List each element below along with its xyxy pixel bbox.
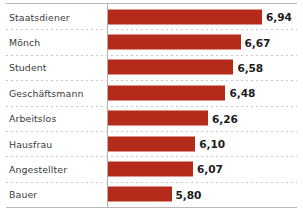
bar-group: 6,26: [108, 111, 238, 126]
bar: [108, 60, 233, 75]
value-label: 6,10: [199, 138, 225, 150]
bar-group: 5,80: [108, 187, 201, 202]
plot-area: Staatsdiener 6,94 Mönch 6,67 Student: [0, 4, 303, 207]
table-row: Mönch 6,67: [0, 29, 303, 54]
category-label: Angestellter: [9, 163, 67, 174]
bar-rows: Staatsdiener 6,94 Mönch 6,67 Student: [0, 4, 303, 207]
table-row: Arbeitslos 6,26: [0, 106, 303, 131]
table-row: Angestellter 6,07: [0, 156, 303, 181]
table-row: Hausfrau 6,10: [0, 131, 303, 156]
category-label: Arbeitslos: [9, 113, 56, 124]
row-separator: [6, 29, 297, 30]
bar-group: 6,94: [108, 9, 292, 24]
row-separator: [6, 182, 297, 183]
bar-group: 6,07: [108, 161, 223, 176]
value-label: 5,80: [176, 188, 202, 200]
bar: [108, 111, 208, 126]
value-label: 6,26: [212, 112, 238, 124]
row-separator: [6, 80, 297, 81]
bar: [108, 161, 193, 176]
row-separator: [6, 156, 297, 157]
horizontal-bar-chart: Staatsdiener 6,94 Mönch 6,67 Student: [0, 0, 303, 217]
chart-bottom-rule: [6, 207, 297, 208]
table-row: Staatsdiener 6,94: [0, 4, 303, 29]
category-label: Student: [9, 62, 47, 73]
bar-group: 6,48: [108, 85, 255, 100]
row-separator: [6, 131, 297, 132]
value-label: 6,07: [197, 163, 223, 175]
category-label: Hausfrau: [9, 138, 52, 149]
bar: [108, 35, 241, 50]
bar-group: 6,58: [108, 60, 263, 75]
bar: [108, 187, 172, 202]
bar-group: 6,10: [108, 136, 225, 151]
bar: [108, 136, 195, 151]
category-label: Bauer: [9, 189, 37, 200]
row-separator: [6, 106, 297, 107]
table-row: Geschäftsmann 6,48: [0, 80, 303, 105]
value-label: 6,67: [245, 36, 271, 48]
row-separator: [6, 55, 297, 56]
value-label: 6,58: [237, 61, 263, 73]
value-label: 6,48: [229, 87, 255, 99]
category-label: Geschäftsmann: [9, 87, 84, 98]
value-label: 6,94: [266, 11, 292, 23]
table-row: Student 6,58: [0, 55, 303, 80]
category-label: Staatsdiener: [9, 11, 70, 22]
bar: [108, 85, 225, 100]
bar: [108, 9, 262, 24]
category-label: Mönch: [9, 37, 40, 48]
table-row: Bauer 5,80: [0, 182, 303, 207]
bar-group: 6,67: [108, 35, 270, 50]
